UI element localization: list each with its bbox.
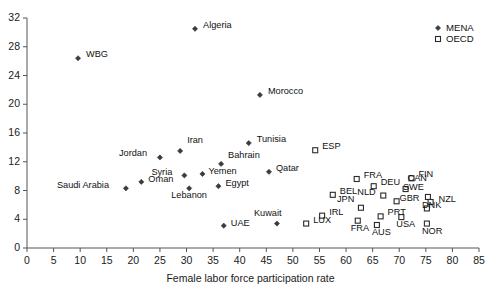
data-point-iran: [178, 148, 183, 153]
point-label-tunisia: Tunisia: [257, 134, 286, 144]
x-tick-40: 40: [226, 254, 254, 266]
point-label-kuwait: Kuwait: [254, 208, 282, 218]
legend-label-oecd: OECD: [446, 33, 474, 44]
data-point-saudi-arabia: [123, 186, 128, 191]
point-label-fra: FRA: [351, 223, 369, 233]
point-label-wbg: WBG: [86, 49, 108, 59]
y-tick-0: 0: [0, 241, 20, 253]
legend-marker-mena: [435, 25, 440, 30]
point-label-irl: IRL: [329, 207, 343, 217]
y-tick-20: 20: [0, 97, 20, 109]
y-tick-28: 28: [0, 40, 20, 52]
x-tick-70: 70: [385, 254, 413, 266]
x-tick-85: 85: [465, 254, 493, 266]
data-point-uae: [221, 223, 226, 228]
x-tick-75: 75: [412, 254, 440, 266]
data-point-egypt: [216, 184, 221, 189]
data-point-qatar: [266, 169, 271, 174]
point-label-lux: LUX: [313, 215, 331, 225]
x-tick-30: 30: [173, 254, 201, 266]
data-point-jordan: [157, 155, 162, 160]
data-point-yemen: [200, 171, 205, 176]
data-point-morocco: [257, 92, 262, 97]
y-tick-4: 4: [0, 212, 20, 224]
data-point-oman: [139, 179, 144, 184]
data-point-algeria: [192, 26, 197, 31]
x-tick-10: 10: [66, 254, 94, 266]
y-tick-16: 16: [0, 126, 20, 138]
data-point-nld: [381, 193, 386, 198]
point-label-algeria: Algeria: [203, 20, 232, 30]
data-point-syria: [182, 173, 187, 178]
data-point-wbg: [75, 56, 80, 61]
point-label-lebanon: Lebanon: [171, 190, 207, 200]
chart-markers: [75, 26, 433, 228]
point-label-qatar: Qatar: [276, 163, 299, 173]
x-tick-20: 20: [119, 254, 147, 266]
x-tick-55: 55: [305, 254, 333, 266]
y-tick-8: 8: [0, 184, 20, 196]
point-label-yemen: Yemen: [208, 166, 236, 176]
legend-marker-oecd: [436, 37, 441, 42]
x-tick-35: 35: [199, 254, 227, 266]
y-tick-24: 24: [0, 69, 20, 81]
point-label-oman: Oman: [148, 174, 173, 184]
data-point-kuwait: [274, 221, 279, 226]
x-tick-25: 25: [146, 254, 174, 266]
point-label-deu: DEU: [381, 177, 400, 187]
data-point-swe: [425, 194, 430, 199]
x-axis-title: Female labor force participation rate: [0, 272, 501, 284]
x-tick-15: 15: [93, 254, 121, 266]
point-label-uae: UAE: [231, 218, 250, 228]
legend-markers: [435, 25, 440, 41]
x-tick-80: 80: [438, 254, 466, 266]
x-tick-5: 5: [40, 254, 68, 266]
x-tick-65: 65: [359, 254, 387, 266]
point-label-dnk: DNK: [422, 200, 441, 210]
legend-label-mena: MENA: [446, 22, 474, 33]
point-label-morocco: Morocco: [268, 86, 303, 96]
x-tick-0: 0: [13, 254, 41, 266]
point-label-fra: FRA: [364, 170, 382, 180]
x-tick-50: 50: [279, 254, 307, 266]
scatter-chart: AlgeriaWBGMoroccoTunisiaIranJordanBahrai…: [0, 0, 501, 291]
point-label-iran: Iran: [187, 135, 203, 145]
point-label-jpn: JPN: [337, 194, 354, 204]
point-label-saudi-arabia: Saudi Arabia: [57, 180, 109, 190]
point-label-aus: AUS: [372, 227, 391, 237]
point-label-usa: USA: [396, 219, 415, 229]
y-tick-32: 32: [0, 11, 20, 23]
x-tick-45: 45: [252, 254, 280, 266]
point-label-prt: PRT: [388, 207, 406, 217]
data-point-prt: [378, 214, 383, 219]
chart-canvas: [0, 0, 501, 291]
data-point-bel: [330, 192, 335, 197]
point-label-nld: NLD: [357, 187, 375, 197]
data-point-fra: [354, 177, 359, 182]
data-point-esp: [313, 148, 318, 153]
point-label-bahrain: Bahrain: [228, 150, 260, 160]
point-label-esp: ESP: [322, 141, 340, 151]
point-label-swe: SWE: [403, 182, 424, 192]
point-label-gbr: GBR: [400, 193, 420, 203]
point-label-nor: NOR: [422, 226, 442, 236]
data-point-lux: [304, 221, 309, 226]
x-tick-60: 60: [332, 254, 360, 266]
point-label-egypt: Egypt: [225, 178, 249, 188]
data-point-jpn: [358, 205, 363, 210]
data-point-gbr: [394, 199, 399, 204]
y-tick-12: 12: [0, 155, 20, 167]
point-label-jordan: Jordan: [119, 148, 147, 158]
data-point-tunisia: [246, 140, 251, 145]
